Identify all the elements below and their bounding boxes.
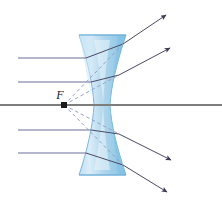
refracted-ray-1 — [123, 15, 166, 44]
refracted-rays — [119, 15, 171, 192]
focal-point-dot — [61, 102, 67, 108]
refracted-ray-2 — [119, 48, 170, 75]
refracted-ray-3 — [119, 134, 171, 160]
ray-diagram-figure: F — [0, 0, 222, 208]
focal-point-label: F — [55, 88, 64, 102]
refracted-ray-4 — [123, 165, 167, 192]
ray-diagram-canvas: F — [0, 0, 222, 208]
